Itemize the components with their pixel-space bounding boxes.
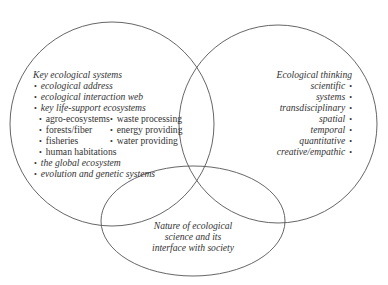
left-item: evolution and genetic systems	[34, 168, 155, 180]
right-item: creative/empathic	[277, 146, 352, 158]
right-set-title: Ecological thinking	[277, 69, 352, 80]
left-subitem: water providing	[110, 135, 178, 147]
bottom-line: interface with society	[143, 242, 243, 253]
bottom-line: science and its	[143, 231, 243, 242]
bottom-line: Nature of ecological	[143, 220, 243, 231]
left-set-title: Key ecological systems	[33, 69, 122, 80]
